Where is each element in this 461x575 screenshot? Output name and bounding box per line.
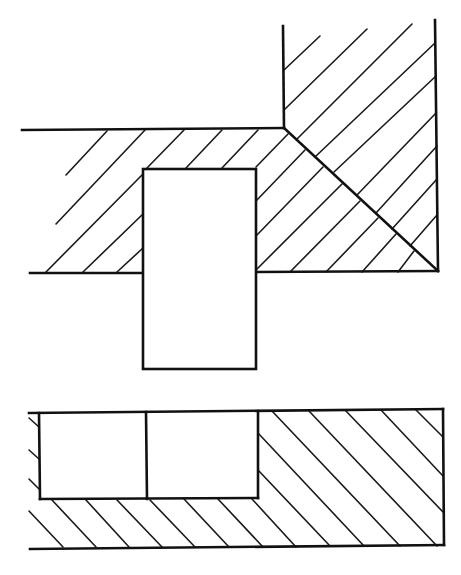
hatch-line — [362, 234, 396, 272]
hatch-line — [147, 130, 184, 168]
hatch-line — [186, 130, 222, 168]
hatch-line — [29, 479, 39, 489]
hatch-region-lower-bottom-strip — [29, 499, 263, 547]
hatch-line — [284, 29, 367, 110]
hatch-region-lower-right-block — [252, 410, 443, 547]
hatch-line — [392, 179, 437, 229]
hatch-line — [410, 215, 437, 246]
hatch-line — [256, 134, 288, 167]
hatch-line — [56, 130, 145, 224]
hatch-line — [184, 499, 229, 547]
hatch-region-lower-left-edge — [29, 418, 39, 489]
hatch-line — [29, 418, 39, 427]
upper-vertical-member-right-edge — [435, 20, 438, 271]
hatch-region-upper-right — [284, 24, 437, 246]
upper-vertical-member-left-edge — [283, 26, 284, 128]
hatch-line — [256, 167, 323, 236]
hatch-line — [252, 499, 296, 547]
hatch-line — [218, 499, 263, 547]
recess-left-wall — [39, 413, 40, 499]
hatch-line — [258, 433, 364, 546]
hatch-line — [376, 146, 437, 213]
hatch-line — [398, 251, 414, 272]
hatch-line — [258, 470, 330, 546]
hatch-line — [52, 500, 96, 547]
hatch-line — [46, 174, 143, 272]
hatch-line — [83, 214, 143, 272]
lower-block-right-edge — [443, 409, 444, 545]
hatch-line — [381, 410, 443, 476]
key-insert — [143, 169, 256, 369]
hatch-line — [357, 113, 436, 195]
hatch-line — [416, 410, 443, 437]
section-drawing — [0, 0, 461, 575]
hatch-line — [284, 36, 320, 70]
hatch-line — [290, 201, 360, 272]
hatch-line — [222, 130, 258, 168]
hatch-line — [256, 184, 342, 270]
hatch-line — [150, 500, 195, 547]
recess-bottom — [40, 498, 258, 499]
upper-horizontal-member-top-edge — [22, 128, 284, 130]
hatch-line — [272, 411, 400, 546]
hatch-line — [66, 131, 107, 175]
recess-divider — [146, 412, 147, 499]
hatch-line — [86, 500, 129, 547]
lower-block-bottom-edge — [30, 545, 444, 549]
hatch-line — [29, 511, 63, 547]
hatch-line — [117, 248, 143, 272]
hatch-line — [29, 450, 39, 459]
mitre-line — [284, 128, 438, 271]
hatch-line — [117, 500, 162, 547]
hatch-region-upper-middle — [256, 134, 414, 272]
hatch-line — [309, 411, 437, 546]
upper-bottom-edge-right — [256, 271, 438, 272]
